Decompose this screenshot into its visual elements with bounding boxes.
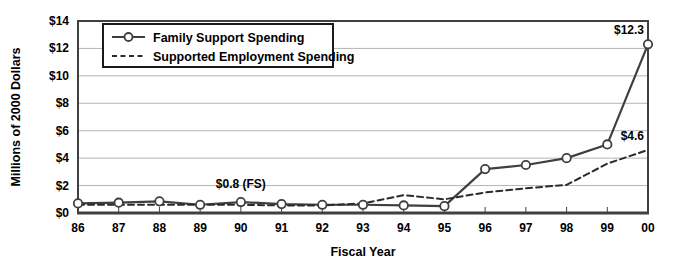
data-point bbox=[644, 40, 652, 48]
x-tick-label: 00 bbox=[641, 221, 655, 235]
y-axis-tick-labels: $0$2$4$6$8$10$12$14 bbox=[49, 14, 69, 220]
x-tick-label: 96 bbox=[478, 221, 492, 235]
x-tick-label: 88 bbox=[153, 221, 167, 235]
x-axis-title: Fiscal Year bbox=[330, 245, 395, 259]
y-tick-label: $6 bbox=[56, 124, 70, 138]
x-tick-label: 92 bbox=[316, 221, 330, 235]
data-point bbox=[115, 199, 123, 207]
data-point bbox=[318, 201, 326, 209]
data-point bbox=[522, 161, 530, 169]
x-tick-label: 99 bbox=[601, 221, 615, 235]
y-tick-label: $10 bbox=[49, 69, 69, 83]
data-point bbox=[562, 154, 570, 162]
data-point bbox=[400, 201, 408, 209]
data-point bbox=[440, 202, 448, 210]
y-tick-label: $12 bbox=[49, 41, 69, 55]
line-chart: $0$2$4$6$8$10$12$14 86878889909192939495… bbox=[0, 0, 678, 263]
data-point bbox=[359, 201, 367, 209]
x-tick-label: 93 bbox=[356, 221, 370, 235]
y-tick-label: $4 bbox=[56, 151, 70, 165]
data-point bbox=[196, 201, 204, 209]
x-tick-label: 91 bbox=[275, 221, 289, 235]
y-tick-label: $2 bbox=[56, 179, 70, 193]
legend-swatch-marker-0 bbox=[125, 33, 133, 41]
x-tick-label: 95 bbox=[438, 221, 452, 235]
data-point bbox=[277, 200, 285, 208]
series-line-0 bbox=[78, 44, 648, 206]
data-label: $4.6 bbox=[621, 129, 645, 143]
x-tick-label: 87 bbox=[112, 221, 126, 235]
y-tick-label: $0 bbox=[56, 206, 70, 220]
series-lines bbox=[78, 44, 648, 206]
legend: Family Support SpendingSupported Employm… bbox=[103, 24, 354, 67]
x-tick-label: 90 bbox=[234, 221, 248, 235]
x-tick-label: 89 bbox=[193, 221, 207, 235]
x-axis-tick-labels: 868788899091929394959697989900 bbox=[71, 221, 655, 235]
y-tick-label: $14 bbox=[49, 14, 69, 28]
data-label: $0.8 (FS) bbox=[216, 177, 266, 191]
data-point bbox=[74, 199, 82, 207]
y-tick-label: $8 bbox=[56, 96, 70, 110]
y-axis-title: Millions of 2000 Dollars bbox=[9, 47, 23, 186]
data-point bbox=[481, 165, 489, 173]
chart-container: $0$2$4$6$8$10$12$14 86878889909192939495… bbox=[0, 0, 678, 263]
x-tick-label: 94 bbox=[397, 221, 411, 235]
x-tick-label: 86 bbox=[71, 221, 85, 235]
x-tick-label: 97 bbox=[519, 221, 533, 235]
data-point bbox=[237, 198, 245, 206]
data-label: $12.3 bbox=[614, 23, 644, 37]
legend-label-1: Supported Employment Spending bbox=[153, 50, 354, 64]
data-point bbox=[155, 197, 163, 205]
x-tick-label: 98 bbox=[560, 221, 574, 235]
data-point bbox=[603, 140, 611, 148]
legend-label-0: Family Support Spending bbox=[153, 31, 304, 45]
